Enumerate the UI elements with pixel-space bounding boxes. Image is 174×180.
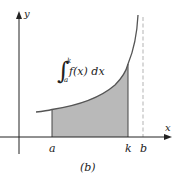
tick-label-b: b bbox=[140, 142, 147, 155]
y-axis-arrow-icon bbox=[16, 11, 22, 19]
integral-diagram: y x a k b ∫ k a f(x) dx (b) bbox=[0, 0, 174, 180]
integral-upper-limit: k bbox=[67, 57, 71, 65]
tick-label-k: k bbox=[125, 142, 132, 155]
y-axis-label: y bbox=[23, 8, 30, 19]
x-axis-label: x bbox=[165, 122, 171, 133]
figure-caption: (b) bbox=[80, 161, 96, 174]
integrand: f(x) dx bbox=[68, 65, 105, 78]
integral-lower-limit: a bbox=[64, 76, 68, 84]
x-axis-arrow-icon bbox=[164, 134, 172, 140]
tick-label-a: a bbox=[49, 142, 56, 155]
